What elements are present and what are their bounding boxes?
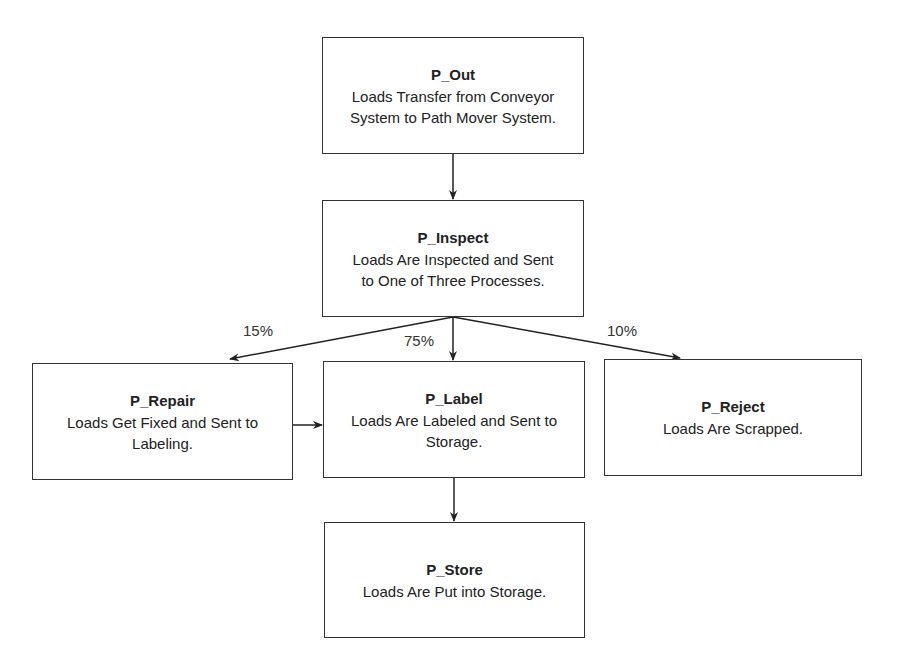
node-p-inspect: P_Inspect Loads Are Inspected and Sent t… xyxy=(322,200,584,317)
node-p-repair: P_Repair Loads Get Fixed and Sent to Lab… xyxy=(32,363,293,480)
node-p-out: P_Out Loads Transfer from Conveyor Syste… xyxy=(322,37,584,154)
edge-inspect-to-reject xyxy=(453,317,680,358)
node-description-line: Storage. xyxy=(426,431,483,452)
edge-label-repair-pct: 15% xyxy=(243,322,273,339)
node-p-label: P_Label Loads Are Labeled and Sent to St… xyxy=(323,361,585,478)
node-p-store: P_Store Loads Are Put into Storage. xyxy=(324,522,585,638)
node-title: P_Label xyxy=(425,388,483,410)
node-description-line: Loads Are Scrapped. xyxy=(663,418,803,439)
node-title: P_Inspect xyxy=(418,227,489,249)
edge-label-label-pct: 75% xyxy=(404,332,434,349)
node-description-line: to One of Three Processes. xyxy=(361,270,544,291)
node-description-line: Loads Are Labeled and Sent to xyxy=(351,410,557,431)
node-title: P_Out xyxy=(431,64,475,86)
node-description-line: Loads Are Put into Storage. xyxy=(363,581,546,602)
node-title: P_Store xyxy=(426,559,483,581)
edge-label-reject-pct: 10% xyxy=(607,322,637,339)
node-p-reject: P_Reject Loads Are Scrapped. xyxy=(604,359,862,476)
node-description-line: Loads Transfer from Conveyor xyxy=(352,86,555,107)
node-description-line: System to Path Mover System. xyxy=(350,107,556,128)
node-title: P_Repair xyxy=(130,390,195,412)
node-description-line: Loads Get Fixed and Sent to xyxy=(67,412,258,433)
node-description-line: Loads Are Inspected and Sent xyxy=(353,249,554,270)
node-description-line: Labeling. xyxy=(132,433,193,454)
node-title: P_Reject xyxy=(701,396,764,418)
